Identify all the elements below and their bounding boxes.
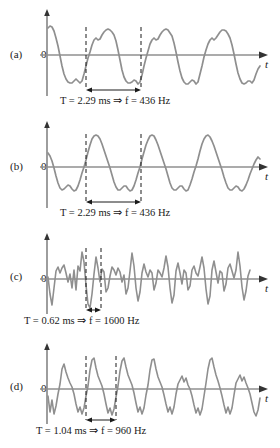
panel-d-waveform [48,358,260,416]
panel-a-period-arrow-right [135,88,141,93]
panel-c-annotation: T = 0.62 ms ⇒ f = 1600 Hz [24,314,139,326]
panel-d: (d) 0 t T = 1.04 ms ⇒ f = 960 Hz [0,336,280,448]
panel-b: (b) 0 t T = 2.29 ms ⇒ f = 436 Hz [0,112,280,224]
panel-d-y-axis-arrow [44,343,50,350]
waveform-figure: (a) 0 t T = 2.29 ms ⇒ f = 436 Hz (b) 0 t [0,0,280,448]
panel-c-y-axis-arrow [44,233,50,240]
panel-b-waveform [48,135,260,191]
panel-a-period-arrow-left [86,88,92,93]
panel-b-period-arrow-left [86,200,92,205]
panel-a: (a) 0 t T = 2.29 ms ⇒ f = 436 Hz [0,0,280,112]
panel-c: (c) 0 t T = 0.62 ms ⇒ f = 1600 Hz [0,226,280,334]
panel-d-x-axis-arrow [259,386,268,393]
panel-d-period-arrow-left [86,418,92,423]
panel-b-x-axis-arrow [259,164,268,171]
panel-c-period-arrow-left [86,308,92,313]
panel-d-period-arrow-right [110,418,116,423]
panel-c-waveform [48,252,250,308]
panel-b-y-axis-arrow [44,121,50,128]
panel-a-annotation: T = 2.29 ms ⇒ f = 436 Hz [60,94,170,106]
panel-c-x-axis-arrow [259,276,268,283]
panel-c-period-arrow-right [95,308,101,313]
panel-b-period-arrow-right [135,200,141,205]
panel-a-x-axis-arrow [259,52,268,59]
panel-a-y-axis-arrow [44,9,50,16]
panel-b-annotation: T = 2.29 ms ⇒ f = 436 Hz [60,206,170,218]
panel-d-annotation: T = 1.04 ms ⇒ f = 960 Hz [36,424,146,436]
